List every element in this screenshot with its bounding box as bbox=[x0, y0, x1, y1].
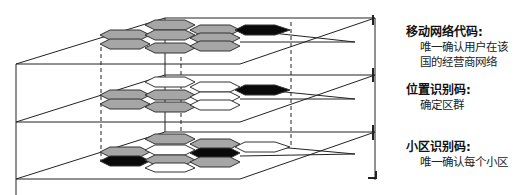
label-desc-line: 确定区群 bbox=[406, 98, 471, 113]
location-area-code-label: 位置识别码: 确定区群 bbox=[406, 83, 471, 113]
hex-cells-layer-1 bbox=[100, 20, 290, 53]
label-desc-line: 唯一确认每个小区 bbox=[406, 155, 508, 170]
mobile-network-code-label: 移动网络代码: 唯一确认用户在该 国的经营商网络 bbox=[406, 25, 508, 70]
label-title: 移动网络代码: bbox=[406, 25, 508, 40]
hex-cells-layer-3 bbox=[100, 134, 290, 172]
label-title: 位置识别码: bbox=[406, 83, 471, 98]
label-desc-line: 唯一确认用户在该 bbox=[406, 40, 508, 55]
label-desc-line: 国的经营商网络 bbox=[406, 55, 508, 70]
right-edge bbox=[368, 15, 376, 180]
label-title: 小区识别码: bbox=[406, 140, 508, 155]
cell-identity-label: 小区识别码: 唯一确认每个小区 bbox=[406, 140, 508, 170]
hex-cells-layer-2 bbox=[100, 77, 290, 112]
